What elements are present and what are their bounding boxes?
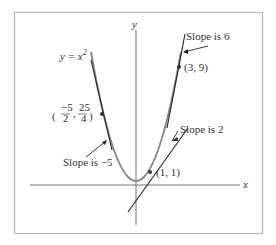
slope-6-label: Slope is 6 bbox=[186, 30, 230, 42]
figure-frame bbox=[15, 13, 263, 234]
point-label-3-9: (3, 9) bbox=[184, 61, 208, 74]
slope-2-label: Slope is 2 bbox=[180, 123, 223, 135]
point-label-neg5half: ( −5 2 , 25 4 ) bbox=[52, 101, 93, 124]
arrowhead-icon bbox=[102, 140, 107, 145]
slope-neg5-arrow bbox=[86, 141, 106, 157]
arrowhead-icon bbox=[183, 49, 188, 54]
parabola-tangent-diagram: x y y = x2 (3, 9) (1, 1) ( −5 2 , 25 4 )… bbox=[0, 0, 276, 245]
slope-neg5-label: Slope is −5 bbox=[63, 156, 113, 168]
svg-text:,: , bbox=[73, 107, 76, 119]
point-label-1-1: (1, 1) bbox=[156, 166, 180, 179]
point-neg5half bbox=[100, 112, 104, 116]
svg-text:): ) bbox=[89, 110, 93, 123]
curve-label: y = x2 bbox=[59, 48, 87, 62]
tangent-line-slope-neg5 bbox=[91, 60, 112, 150]
x-axis-label: x bbox=[242, 178, 248, 190]
point-1-1 bbox=[148, 170, 152, 174]
tangent-line-slope-6 bbox=[167, 34, 185, 128]
point-3-9 bbox=[177, 65, 181, 69]
svg-text:(: ( bbox=[52, 110, 56, 123]
y-axis-label: y bbox=[131, 18, 137, 30]
svg-text:4: 4 bbox=[81, 112, 87, 124]
svg-text:2: 2 bbox=[63, 112, 69, 124]
